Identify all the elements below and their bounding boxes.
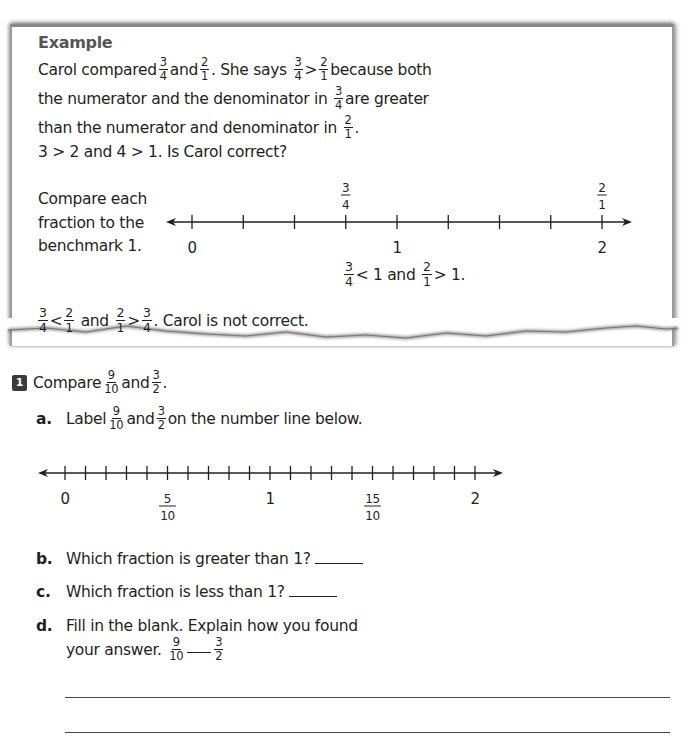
svg-text:1: 1 (598, 198, 605, 212)
fraction: 21 (116, 307, 126, 334)
svg-text:0: 0 (60, 490, 69, 508)
fraction: 34 (294, 57, 303, 82)
problem-number-badge: 1 (12, 375, 27, 391)
problem-number-line[interactable]: 0510115102 (0, 440, 692, 520)
svg-text:1: 1 (265, 490, 274, 508)
svg-text:3: 3 (342, 181, 349, 195)
svg-text:2: 2 (597, 239, 606, 257)
svg-text:10: 10 (365, 509, 380, 520)
fraction: 32 (157, 406, 166, 431)
answer-blank-b[interactable] (315, 563, 363, 564)
fraction: 32 (152, 370, 161, 395)
example-title: Example (38, 33, 112, 52)
fraction: 910 (103, 370, 119, 395)
svg-text:0: 0 (187, 239, 196, 257)
fraction: 21 (64, 307, 74, 334)
example-number-line: 0123421 (0, 180, 692, 260)
svg-text:5: 5 (164, 492, 171, 506)
answer-blank-c[interactable] (289, 596, 337, 597)
fraction: 21 (200, 57, 209, 82)
answer-line-2[interactable] (65, 732, 670, 733)
example-line-2: the numerator and the denominator in 34a… (38, 87, 429, 112)
part-b: b.Which fraction is greater than 1? (36, 550, 363, 568)
fraction: 21 (319, 57, 328, 82)
fraction: 34 (159, 57, 168, 82)
benchmark-result: 34< 1 and 21> 1. (342, 262, 465, 289)
svg-text:4: 4 (342, 198, 349, 212)
example-line-3: than the numerator and denominator in 21… (38, 116, 359, 141)
answer-line-1[interactable] (65, 697, 670, 698)
svg-text:15: 15 (365, 492, 380, 506)
fraction: 34 (334, 86, 343, 111)
example-conclusion: 34<21 and 21>34. Carol is not correct. (36, 308, 308, 335)
svg-text:1: 1 (392, 239, 401, 257)
problem-1-prompt: 1Compare910and32. (12, 371, 167, 396)
fraction: 910 (168, 637, 184, 662)
svg-text:2: 2 (598, 181, 605, 195)
part-d-line-2: your answer. 91032 (66, 638, 225, 663)
example-line-4: 3 > 2 and 4 > 1. Is Carol correct? (38, 143, 287, 161)
svg-text:2: 2 (470, 490, 479, 508)
part-c: c.Which fraction is less than 1? (36, 583, 337, 601)
fraction: 34 (142, 307, 152, 334)
fraction: 34 (38, 307, 48, 334)
example-line-1: Carol compared34and21. She says 34>21bec… (38, 58, 432, 83)
fraction: 34 (344, 261, 354, 288)
fraction: 32 (214, 637, 223, 662)
fraction: 21 (422, 261, 432, 288)
comparison-blank[interactable] (187, 652, 211, 653)
svg-text:10: 10 (160, 509, 175, 520)
fraction: 21 (344, 115, 353, 140)
part-d: d.Fill in the blank. Explain how you fou… (36, 617, 358, 635)
fraction: 910 (108, 406, 124, 431)
part-a: a.Label910and32on the number line below. (36, 407, 362, 432)
